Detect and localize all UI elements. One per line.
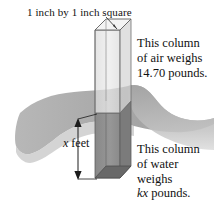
cross-section-label: 1 inch by 1 inch square xyxy=(27,6,132,19)
water-callout-line-4: kx pounds. xyxy=(137,186,200,201)
depth-label: x feet xyxy=(63,136,89,150)
air-callout-line-3: 14.70 pounds. xyxy=(137,66,208,81)
pressure-column-figure: 1 inch by 1 inch square This column of a… xyxy=(0,0,219,214)
water-callout-line-3: weighs xyxy=(137,172,200,187)
air-callout-line-1: This column xyxy=(137,36,208,51)
water-weight-variable: kx xyxy=(137,186,148,200)
water-callout-line-1: This column xyxy=(137,142,200,157)
depth-unit: feet xyxy=(68,136,89,150)
water-callout-line-2: of water xyxy=(137,157,200,172)
water-column-callout: This column of water weighs kx pounds. xyxy=(137,142,200,201)
air-callout-line-2: of air weighs xyxy=(137,51,208,66)
water-weight-units: pounds. xyxy=(148,186,190,200)
air-column xyxy=(95,19,131,113)
air-column-callout: This column of air weighs 14.70 pounds. xyxy=(137,36,208,80)
